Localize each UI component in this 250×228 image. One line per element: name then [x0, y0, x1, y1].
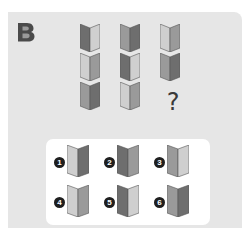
option-number-badge: 2 [104, 157, 115, 168]
missing-piece-question-mark: ? [162, 88, 184, 116]
grid-piece-c2-r1 [120, 24, 144, 56]
puzzle-label-b-icon [16, 21, 36, 43]
answer-option-2[interactable]: 2 [104, 145, 148, 179]
option-number-badge: 1 [54, 157, 65, 168]
grid-piece-c1-r3 [80, 82, 104, 114]
answer-options-box: 1 2 3 4 5 6 [46, 139, 210, 225]
option-number-badge: 4 [54, 197, 65, 208]
grid-piece-c2-r2 [120, 53, 144, 85]
grid-piece-c1-r2 [80, 53, 104, 85]
answer-option-1[interactable]: 1 [54, 145, 98, 179]
answer-option-4[interactable]: 4 [54, 185, 98, 219]
grid-piece-c2-r3 [120, 82, 144, 114]
grid-piece-c3-r1 [160, 24, 184, 56]
grid-piece-c3-r2 [160, 53, 184, 85]
option-number-badge: 3 [154, 157, 165, 168]
answer-option-5[interactable]: 5 [104, 185, 148, 219]
option-number-badge: 6 [154, 197, 165, 208]
grid-piece-c1-r1 [80, 24, 104, 56]
answer-option-3[interactable]: 3 [154, 145, 198, 179]
answer-option-6[interactable]: 6 [154, 185, 198, 219]
option-number-badge: 5 [104, 197, 115, 208]
